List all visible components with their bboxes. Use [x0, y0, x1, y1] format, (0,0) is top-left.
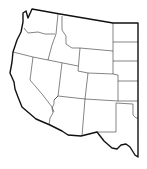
western-us-outline-map [0, 0, 147, 169]
